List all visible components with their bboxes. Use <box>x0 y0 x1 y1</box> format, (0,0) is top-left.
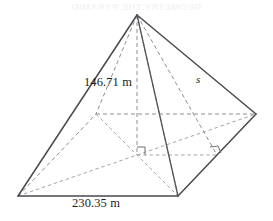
pyramid-figure: GEOMETRY THE PYRAMID 146.71 m 230.35 m <box>0 0 273 221</box>
lateral-edge-right-visible <box>137 15 256 114</box>
pyramid-drawing <box>0 0 273 221</box>
height-measurement-label: 146.71 m <box>84 76 132 89</box>
base-edge-back-left-hidden <box>18 114 96 196</box>
right-angle-mark-base-center <box>137 147 145 155</box>
lateral-edge-left-visible <box>18 15 137 196</box>
slant-height-variable-label: s <box>196 74 200 85</box>
slant-height-segment-hidden <box>137 15 217 155</box>
front-face-crease-visible <box>137 15 178 196</box>
base-edge-measurement-label: 230.35 m <box>72 197 120 210</box>
lateral-edge-back-hidden <box>96 15 137 114</box>
